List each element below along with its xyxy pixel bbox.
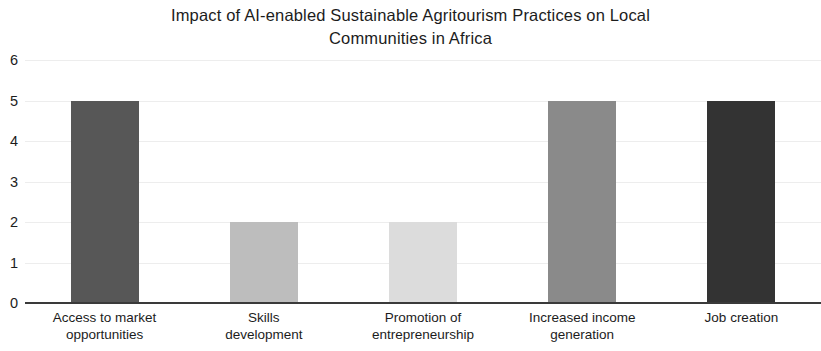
x-axis-tick-label: Access to market opportunities bbox=[25, 309, 184, 343]
y-axis-tick-label: 0 bbox=[0, 296, 18, 311]
y-axis-tick-label: 6 bbox=[0, 53, 18, 68]
x-axis-tick-label: Promotion of entrepreneurship bbox=[343, 309, 502, 343]
plot-area bbox=[25, 60, 821, 303]
bar bbox=[389, 222, 457, 303]
bar bbox=[230, 222, 298, 303]
gridline bbox=[25, 101, 821, 102]
gridline bbox=[25, 141, 821, 142]
bar bbox=[548, 101, 616, 304]
bar-chart: Impact of AI-enabled Sustainable Agritou… bbox=[0, 0, 821, 351]
y-axis-tick-label: 2 bbox=[0, 215, 18, 230]
x-axis-tick-label: Increased income generation bbox=[503, 309, 662, 343]
y-axis-tick-label: 5 bbox=[0, 94, 18, 109]
gridline bbox=[25, 182, 821, 183]
bar bbox=[707, 101, 775, 304]
x-axis-tick-label: Job creation bbox=[662, 309, 821, 326]
y-axis-tick-label: 3 bbox=[0, 175, 18, 190]
chart-title: Impact of AI-enabled Sustainable Agritou… bbox=[0, 4, 821, 50]
x-axis-tick-label: Skills development bbox=[184, 309, 343, 343]
x-axis-line bbox=[25, 302, 821, 304]
bar bbox=[71, 101, 139, 304]
gridline bbox=[25, 60, 821, 61]
y-axis-tick-label: 4 bbox=[0, 134, 18, 149]
y-axis-tick-label: 1 bbox=[0, 256, 18, 271]
